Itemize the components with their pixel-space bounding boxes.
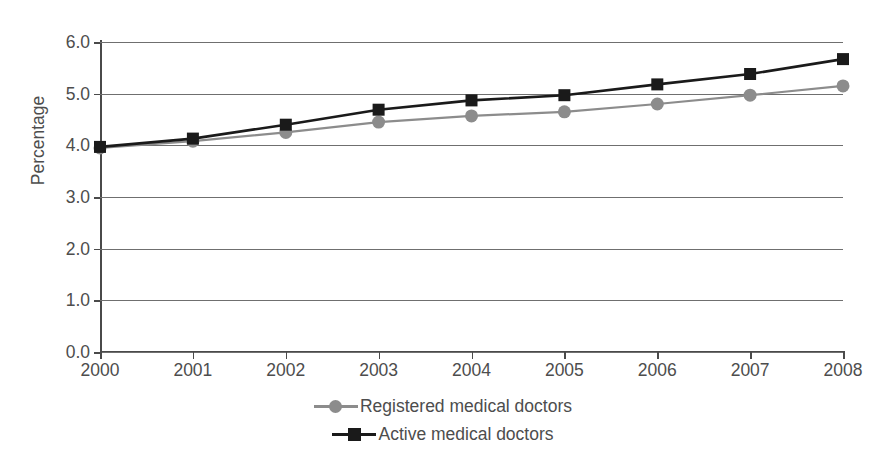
- series-line: [100, 86, 843, 148]
- data-point-square: [373, 104, 385, 116]
- y-axis-tick-label: 4.0: [28, 135, 90, 156]
- legend-item-label: Active medical doctors: [376, 424, 553, 445]
- x-axis-tick-label: 2005: [524, 360, 604, 381]
- x-axis-tick-mark: [286, 351, 288, 359]
- gridline: [100, 42, 843, 43]
- series-active: [94, 53, 849, 153]
- y-axis-tick-label: 1.0: [28, 290, 90, 311]
- x-axis-tick-mark: [564, 351, 566, 359]
- gridline: [100, 300, 843, 301]
- data-point-square: [744, 68, 756, 80]
- legend-item-inner: Active medical doctors: [332, 424, 553, 445]
- x-axis-tick-mark: [193, 351, 195, 359]
- y-axis-tick-label: 5.0: [28, 83, 90, 104]
- data-point-square: [837, 53, 849, 65]
- x-axis-tick-label: 2001: [153, 360, 233, 381]
- x-axis-tick-mark: [100, 351, 102, 359]
- series-registered: [94, 79, 850, 154]
- data-point-circle: [651, 98, 664, 111]
- data-point-circle: [465, 109, 478, 122]
- data-point-square: [651, 78, 663, 90]
- legend-square-marker-icon: [332, 425, 376, 443]
- y-axis-tick-label: 2.0: [28, 238, 90, 259]
- data-point-square: [187, 133, 199, 145]
- legend-key-marker: [348, 428, 361, 441]
- legend-item[interactable]: Registered medical doctors: [0, 392, 886, 420]
- y-axis-tick-label: 6.0: [28, 32, 90, 53]
- gridline: [100, 145, 843, 146]
- chart-legend: Registered medical doctorsActive medical…: [0, 392, 886, 448]
- x-axis-tick-mark: [379, 351, 381, 359]
- x-axis-tick-label: 2006: [617, 360, 697, 381]
- x-axis-tick-label: 2002: [246, 360, 326, 381]
- x-axis-tick-mark: [750, 351, 752, 359]
- x-axis-tick-label: 2004: [432, 360, 512, 381]
- data-point-circle: [558, 105, 571, 118]
- x-axis-tick-mark: [472, 351, 474, 359]
- legend-item[interactable]: Active medical doctors: [0, 420, 886, 448]
- gridline: [100, 94, 843, 95]
- x-axis-tick-mark: [657, 351, 659, 359]
- chart-figure: Percentage 0.01.02.03.04.05.06.0 2000200…: [0, 0, 886, 464]
- data-point-circle: [372, 116, 385, 129]
- data-point-square: [280, 119, 292, 131]
- legend-item-label: Registered medical doctors: [358, 396, 572, 417]
- x-axis-tick-label: 2008: [803, 360, 883, 381]
- gridline: [100, 249, 843, 250]
- y-axis-tick-label: 3.0: [28, 187, 90, 208]
- data-point-square: [558, 89, 570, 101]
- data-point-circle: [837, 79, 850, 92]
- legend-item-inner: Registered medical doctors: [314, 396, 572, 417]
- data-point-circle: [744, 89, 757, 102]
- legend-key-marker: [329, 400, 342, 413]
- x-axis-tick-mark: [843, 351, 845, 359]
- series-line: [100, 59, 843, 147]
- x-axis-tick-label: 2000: [60, 360, 140, 381]
- data-point-square: [466, 94, 478, 106]
- data-point-circle: [279, 126, 292, 139]
- gridline: [100, 197, 843, 198]
- x-axis-tick-label: 2007: [710, 360, 790, 381]
- legend-circle-marker-icon: [314, 397, 358, 415]
- x-axis-tick-label: 2003: [339, 360, 419, 381]
